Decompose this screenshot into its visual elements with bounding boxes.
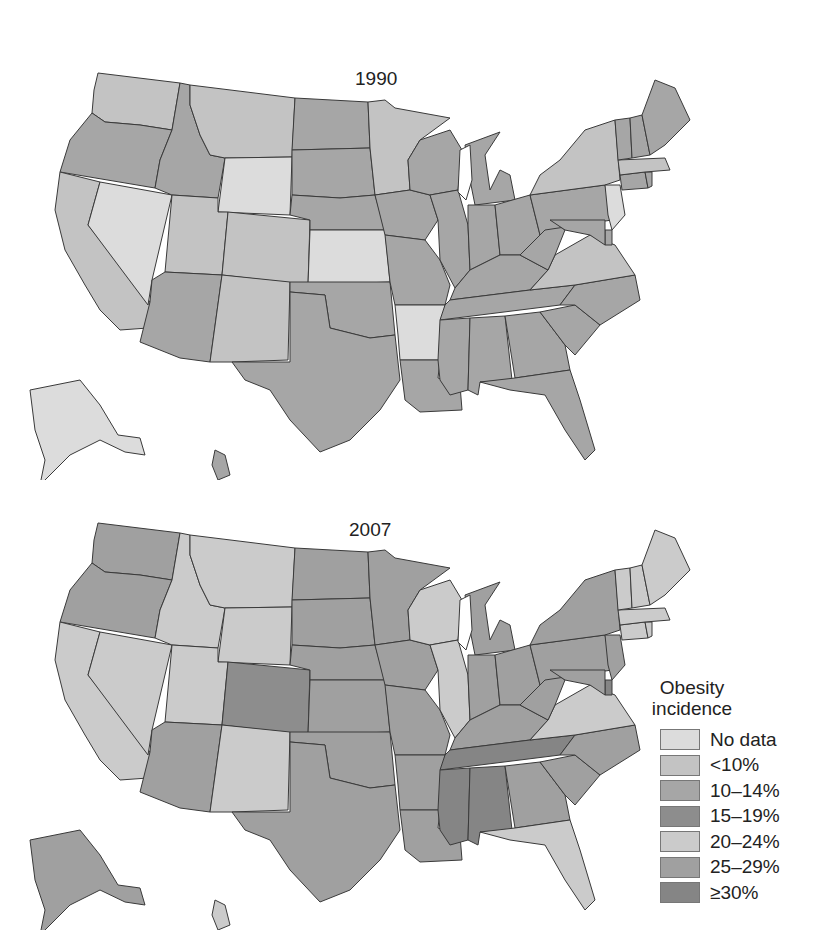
state-co	[222, 212, 310, 285]
legend: Obesity incidence No data <10% 10–14% 15…	[655, 677, 815, 906]
state-mi	[465, 582, 515, 655]
legend-label: 10–14%	[710, 780, 780, 802]
state-ny	[530, 120, 620, 195]
legend-title-line1: Obesity	[617, 677, 767, 698]
lake-michigan	[458, 595, 472, 650]
state-ia	[375, 640, 438, 690]
legend-label: 20–24%	[710, 831, 780, 853]
state-nd	[292, 548, 370, 600]
state-de	[605, 230, 612, 245]
legend-item-20-24: 20–24%	[655, 829, 815, 855]
legend-item-no-data: No data	[655, 727, 815, 753]
state-vt	[615, 118, 632, 160]
legend-swatch	[660, 831, 700, 852]
state-nj	[605, 185, 625, 230]
state-ar	[395, 305, 445, 360]
state-ar	[395, 755, 445, 810]
state-wa	[92, 73, 180, 130]
legend-label: 25–29%	[710, 856, 780, 878]
state-ma	[618, 608, 670, 625]
state-sd	[292, 148, 375, 198]
state-ak	[30, 380, 145, 480]
legend-label: ≥30%	[710, 882, 758, 904]
state-ak	[30, 830, 145, 930]
legend-title-line2: incidence	[617, 698, 767, 719]
legend-label: <10%	[710, 754, 759, 776]
state-vt	[615, 568, 632, 610]
legend-swatch	[660, 780, 700, 801]
state-az	[140, 722, 222, 812]
state-sd	[292, 598, 375, 648]
state-mt	[190, 85, 295, 158]
state-me	[642, 530, 690, 605]
legend-swatch	[660, 755, 700, 776]
state-mt	[190, 535, 295, 608]
state-wy	[218, 157, 292, 215]
legend-swatch	[660, 806, 700, 827]
state-co	[222, 662, 310, 735]
legend-swatch	[660, 882, 700, 903]
legend-item-25-29: 25–29%	[655, 855, 815, 881]
state-nj	[605, 635, 625, 680]
state-nm	[210, 275, 290, 362]
state-ks	[308, 230, 390, 285]
legend-swatch	[660, 729, 700, 750]
state-ms	[438, 318, 470, 395]
legend-swatch	[660, 857, 700, 878]
us-map-1990	[0, 60, 720, 480]
state-ks	[308, 680, 390, 735]
state-ny	[530, 570, 620, 645]
us-map-2007	[0, 510, 720, 930]
state-me	[642, 80, 690, 155]
state-ma	[618, 158, 670, 175]
legend-item-15-19: 15–19%	[655, 804, 815, 830]
legend-label: No data	[710, 729, 777, 751]
lake-michigan	[458, 145, 472, 200]
state-nm	[210, 725, 290, 812]
state-hi	[212, 450, 230, 480]
state-mi	[465, 132, 515, 205]
legend-item-10-14: 10–14%	[655, 778, 815, 804]
state-hi	[212, 900, 230, 930]
state-nd	[292, 98, 370, 150]
legend-item-under-10: <10%	[655, 753, 815, 779]
state-fl	[480, 820, 595, 910]
state-wy	[218, 607, 292, 665]
legend-item-30-plus: ≥30%	[655, 880, 815, 906]
state-fl	[480, 370, 595, 460]
legend-label: 15–19%	[710, 805, 780, 827]
state-de	[605, 680, 612, 695]
state-az	[140, 272, 222, 362]
state-ms	[438, 768, 470, 845]
state-ia	[375, 190, 438, 240]
state-wa	[92, 523, 180, 580]
